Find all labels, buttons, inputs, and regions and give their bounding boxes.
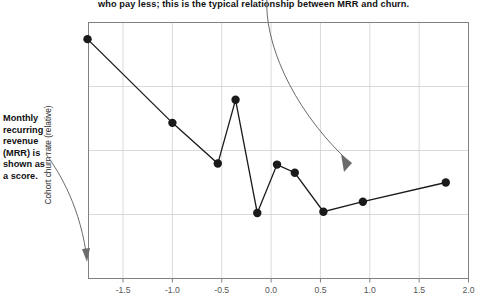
x-tick-label: -1.0 bbox=[165, 285, 180, 295]
series-data-point bbox=[359, 198, 367, 206]
series-data-point bbox=[253, 209, 261, 217]
annotation-arrow-left bbox=[46, 154, 86, 252]
series-line bbox=[88, 39, 446, 213]
x-tick-label: -1.5 bbox=[116, 285, 131, 295]
series-data-point bbox=[273, 160, 281, 168]
chart-annotation-arrows bbox=[46, 0, 352, 262]
chart-svg: -1.5-1.0-0.50.00.51.01.52.0 bbox=[0, 0, 477, 299]
chart-series-layer bbox=[83, 35, 450, 217]
series-data-point bbox=[231, 96, 239, 104]
series-data-point bbox=[168, 119, 176, 127]
x-tick-label: 2.0 bbox=[463, 285, 475, 295]
series-data-point bbox=[291, 169, 299, 177]
series-data-point bbox=[319, 207, 327, 215]
annotation-arrow-top bbox=[267, 0, 345, 158]
x-tick-label: 1.0 bbox=[364, 285, 376, 295]
x-tick-label: -0.5 bbox=[214, 285, 229, 295]
figure-root: who pay less; this is the typical relati… bbox=[0, 0, 477, 299]
series-data-point bbox=[83, 35, 91, 43]
series-data-point bbox=[214, 159, 222, 167]
chart-x-axis-ticks: -1.5-1.0-0.50.00.51.01.52.0 bbox=[116, 279, 475, 295]
annotation-arrowhead-top bbox=[341, 154, 352, 172]
chart-plot-area: -1.5-1.0-0.50.00.51.01.52.0 bbox=[0, 0, 477, 299]
x-tick-label: 0.0 bbox=[265, 285, 277, 295]
x-tick-label: 0.5 bbox=[314, 285, 326, 295]
series-data-point bbox=[442, 178, 450, 186]
x-tick-label: 1.5 bbox=[413, 285, 425, 295]
